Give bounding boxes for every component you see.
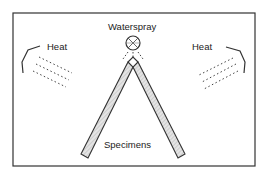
waterspray-label: Waterspray bbox=[108, 21, 156, 32]
spray-droplets bbox=[123, 52, 143, 59]
specimen-apex bbox=[128, 57, 138, 62]
heat-rays-left bbox=[33, 57, 72, 87]
heat-left-label: Heat bbox=[47, 41, 67, 52]
heat-lamp-left-icon bbox=[22, 46, 40, 73]
heat-right-label: Heat bbox=[192, 41, 212, 52]
heat-rays-right bbox=[199, 58, 238, 89]
specimens-label: Specimens bbox=[104, 139, 151, 150]
waterspray-nozzle-icon bbox=[126, 36, 140, 50]
